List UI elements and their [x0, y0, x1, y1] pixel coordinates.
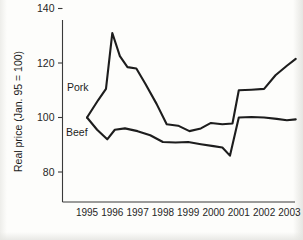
- y-axis-title: Real price (Jan. 95 = 100): [12, 51, 24, 172]
- y-tick-label: 100: [37, 111, 55, 123]
- line-chart: 80100120140 1995199619971998199920002001…: [0, 0, 303, 240]
- x-tick-label: 1998: [152, 207, 175, 218]
- chart-page: 80100120140 1995199619971998199920002001…: [0, 0, 303, 240]
- y-tick-label: 120: [37, 57, 55, 69]
- x-tick-label: 2000: [202, 207, 225, 218]
- x-tick-label: 2002: [253, 207, 276, 218]
- series-group: [87, 33, 296, 156]
- y-tick-label: 140: [37, 2, 55, 14]
- series-label-beef: Beef: [66, 126, 88, 138]
- y-tick-label: 80: [43, 166, 55, 178]
- x-tick-label: 1999: [177, 207, 200, 218]
- series-annotation-group: PorkBeef: [66, 81, 89, 138]
- x-tick-label: 2001: [228, 207, 251, 218]
- x-tick-label: 1995: [76, 207, 99, 218]
- y-tick-group: 80100120140: [37, 2, 63, 178]
- x-tick-label-group: 199519961997199819992000200120022003: [76, 207, 301, 218]
- series-line-beef: [87, 117, 296, 156]
- series-line-pork: [87, 33, 296, 131]
- x-tick-label: 1996: [101, 207, 124, 218]
- x-tick-label: 2003: [278, 207, 301, 218]
- x-tick-label: 1997: [126, 207, 149, 218]
- series-label-pork: Pork: [67, 81, 89, 93]
